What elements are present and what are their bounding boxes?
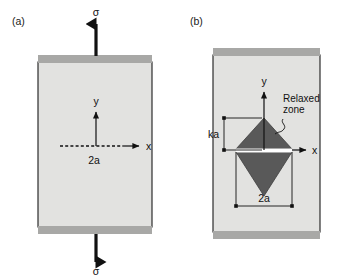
relaxed-zone-label-line2: zone xyxy=(283,104,305,115)
panel-b-y-axis-label: y xyxy=(261,75,267,87)
panel-a-crack-length-label: 2a xyxy=(88,154,100,166)
panel-a-plate xyxy=(38,62,152,227)
panel-a-bottom-stress-label: σ xyxy=(93,265,100,277)
panel-b-x-axis-label: x xyxy=(312,144,318,156)
panel-a-top-stress-label: σ xyxy=(93,6,100,18)
panel-b-label: (b) xyxy=(190,15,203,27)
panel-a-y-axis-label: y xyxy=(93,95,99,107)
dimension-2a-label: 2a xyxy=(258,192,270,204)
panel-b-top-grip-band xyxy=(213,48,320,56)
relaxed-zone-label-line1: Relaxed xyxy=(283,93,320,104)
panel-b: (b) y x xyxy=(190,15,320,239)
dimension-ka-label: ka xyxy=(208,128,219,140)
panel-a: (a) σ σ y x 2a xyxy=(12,6,152,277)
panel-a-bottom-grip-band xyxy=(38,226,152,234)
panel-b-bottom-grip-band xyxy=(213,231,320,239)
panel-a-x-axis-label: x xyxy=(146,140,152,152)
panel-a-top-grip-band xyxy=(38,55,152,63)
crack-relaxed-zone-figure: (a) σ σ y x 2a (b) xyxy=(0,0,341,278)
figure-root: (a) σ σ y x 2a (b) xyxy=(0,0,341,278)
panel-a-label: (a) xyxy=(12,15,25,27)
